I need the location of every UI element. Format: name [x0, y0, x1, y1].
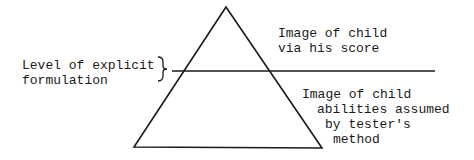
- score-label-line-1: Image of child: [278, 26, 387, 41]
- assumed-label-line-1: Image of child: [302, 87, 411, 102]
- assumed-label-line-2: abilities assumed: [317, 102, 450, 117]
- level-label-line-2: formulation: [22, 73, 108, 88]
- assumed-label-line-4: method: [333, 132, 380, 147]
- curly-brace-icon: [158, 57, 167, 81]
- score-label-line-2: via his score: [278, 41, 379, 56]
- level-label-line-1: Level of explicit: [22, 58, 155, 73]
- assumed-label-line-3: by tester's: [325, 117, 411, 132]
